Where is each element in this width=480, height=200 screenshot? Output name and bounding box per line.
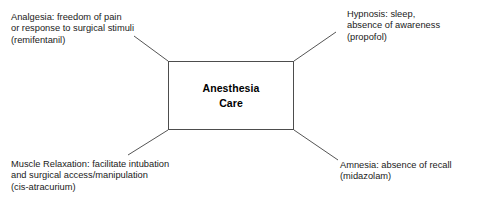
label-muscle-relaxation-line-2: and surgical access/manipulation [11,170,169,181]
label-amnesia: Amnesia: absence of recall (midazolam) [340,160,452,183]
label-amnesia-line-1: Amnesia: absence of recall [340,160,452,171]
label-analgesia-line-1: Analgesia: freedom of pain [11,12,134,23]
label-hypnosis-line-3: (propofol) [347,32,440,43]
label-amnesia-line-2: (midazolam) [340,171,452,182]
label-hypnosis-line-1: Hypnosis: sleep, [347,9,440,20]
center-node-line-2: Care [219,96,243,111]
anesthesia-care-node: Anesthesia Care [168,61,294,130]
label-analgesia: Analgesia: freedom of pain or response t… [11,12,134,46]
label-hypnosis: Hypnosis: sleep, absence of awareness (p… [347,9,440,43]
label-hypnosis-line-2: absence of awareness [347,20,440,31]
label-muscle-relaxation: Muscle Relaxation: facilitate intubation… [11,159,169,193]
label-analgesia-line-2: or response to surgical stimuli [11,23,134,34]
connector-line-amnesia [294,130,338,160]
label-analgesia-line-3: (remifentanil) [11,35,134,46]
label-muscle-relaxation-line-3: (cis-atracurium) [11,182,169,193]
connector-line-muscle-relaxation [128,130,168,155]
center-node-line-1: Anesthesia [202,81,259,96]
connector-line-analgesia [134,36,168,61]
connector-line-hypnosis [294,32,336,61]
anesthesia-care-diagram: Anesthesia Care Analgesia: freedom of pa… [0,0,480,200]
label-muscle-relaxation-line-1: Muscle Relaxation: facilitate intubation [11,159,169,170]
